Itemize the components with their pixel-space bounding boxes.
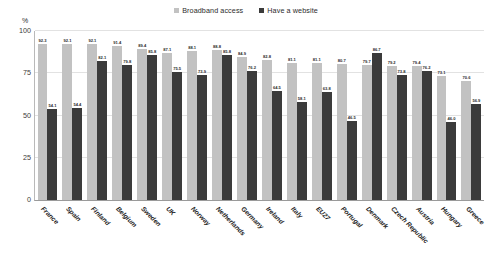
bar-group: 92.154.4: [60, 31, 85, 200]
bar-value-label: 82.1: [98, 55, 106, 60]
bar: 73.9: [197, 75, 207, 200]
bar: 54.4: [72, 108, 82, 200]
bar: 79.4: [412, 66, 422, 200]
legend-swatch-have-a-website: [259, 8, 264, 13]
x-axis-category: Sweden: [134, 203, 159, 273]
bar: 81.1: [312, 63, 322, 200]
x-axis-category-labels: FranceSpainFinlandBelgiumSwedenUKNorwayN…: [34, 203, 484, 273]
bar: 87.1: [162, 53, 172, 200]
bar-value-label: 79.8: [123, 59, 131, 64]
bar-value-label: 73.9: [198, 69, 206, 74]
x-axis-category: Ireland: [259, 203, 284, 273]
x-axis-category-label: EU27: [315, 205, 332, 222]
bar-group: 92.182.1: [85, 31, 110, 200]
x-axis-category: Norway: [184, 203, 209, 273]
bar: 73.8: [397, 75, 407, 200]
bar-value-label: 63.8: [323, 86, 331, 91]
bar: 88.1: [187, 51, 197, 200]
bar-value-label: 46.5: [348, 115, 356, 120]
x-axis-category: Italy: [284, 203, 309, 273]
bar-value-label: 54.1: [48, 103, 56, 108]
chart-legend: Broadband access Have a website: [0, 6, 492, 15]
bar: 63.8: [322, 92, 332, 200]
bar-value-label: 88.8: [213, 44, 221, 49]
x-axis-category: Portugal: [334, 203, 359, 273]
bar: 92.1: [62, 44, 72, 200]
x-axis-category-label: Greece: [465, 205, 486, 226]
bar-value-label: 79.2: [388, 60, 396, 65]
legend-label-broadband-access: Broadband access: [182, 6, 243, 15]
x-axis-category-label: Spain: [65, 205, 83, 223]
bar-value-label: 56.9: [472, 98, 480, 103]
bar: 81.1: [287, 63, 297, 200]
bar-value-label: 75.5: [173, 66, 181, 71]
bar: 46.5: [347, 121, 357, 200]
bar-value-label: 70.6: [462, 75, 470, 80]
bar-value-label: 76.2: [423, 65, 431, 70]
bar-group: 73.146.0: [434, 31, 459, 200]
legend-item-have-a-website: Have a website: [259, 6, 318, 15]
bar: 70.6: [461, 81, 471, 200]
y-axis-unit-label: %: [22, 17, 28, 24]
bar: 64.5: [272, 91, 282, 200]
bar-value-label: 79.4: [413, 60, 421, 65]
x-axis-category-label: France: [40, 205, 60, 225]
bar: 85.8: [222, 55, 232, 200]
bar: 54.1: [47, 109, 57, 200]
y-axis-tick-label: 75: [23, 68, 31, 77]
bar: 92.1: [87, 44, 97, 200]
bar-value-label: 54.4: [73, 102, 81, 107]
bar: 88.8: [212, 50, 222, 200]
bar-group: 88.173.9: [185, 31, 210, 200]
bar: 46.0: [446, 122, 456, 200]
bar-group: 88.885.8: [210, 31, 235, 200]
bar-value-label: 79.7: [363, 59, 371, 64]
bar-group: 80.746.5: [334, 31, 359, 200]
y-axis-tick-label: 0: [27, 195, 31, 204]
bar-value-label: 88.1: [188, 45, 196, 50]
bar-group: 87.175.5: [160, 31, 185, 200]
bar-group: 81.158.1: [284, 31, 309, 200]
bar: 79.7: [362, 65, 372, 200]
bar-value-label: 89.4: [138, 43, 146, 48]
bar: 89.4: [137, 49, 147, 200]
bar: 84.9: [237, 57, 247, 200]
y-axis-tick-label: 25: [23, 152, 31, 161]
chart-container: Broadband access Have a website % 025507…: [0, 0, 492, 279]
x-axis-category: Denmark: [359, 203, 384, 273]
x-axis-category: France: [34, 203, 59, 273]
bar-value-label: 85.8: [223, 49, 231, 54]
x-axis-category-label: Finland: [90, 205, 112, 227]
bar: 56.9: [471, 104, 481, 200]
bar: 92.3: [38, 44, 48, 200]
x-axis-category-label: Italy: [290, 205, 304, 219]
bar-group: 79.476.2: [409, 31, 434, 200]
bar-value-label: 82.8: [263, 54, 271, 59]
x-axis-category: EU27: [309, 203, 334, 273]
bar-group: 89.485.8: [135, 31, 160, 200]
bar: 76.2: [422, 71, 432, 200]
bar: 79.2: [387, 66, 397, 200]
bar-value-label: 91.4: [113, 40, 121, 45]
bar: 79.8: [122, 65, 132, 200]
bar-value-label: 80.7: [338, 58, 346, 63]
bar-group: 70.656.9: [459, 31, 484, 200]
bar-value-label: 92.1: [88, 38, 96, 43]
bar-group: 84.976.2: [235, 31, 260, 200]
bar-group: 91.479.8: [110, 31, 135, 200]
x-axis-category: Austria: [409, 203, 434, 273]
bar: 82.1: [97, 61, 107, 200]
bar: 85.8: [147, 55, 157, 200]
bar-value-label: 81.1: [288, 57, 296, 62]
x-axis-category-label: Austria: [415, 205, 436, 226]
bar-value-label: 76.2: [248, 65, 256, 70]
x-axis-category: Greece: [459, 203, 484, 273]
bar-value-label: 73.1: [438, 70, 446, 75]
bar-value-label: 58.1: [298, 96, 306, 101]
x-axis-category: Netherlands: [209, 203, 234, 273]
bar-value-label: 92.3: [39, 38, 47, 43]
bar-group: 79.786.7: [359, 31, 384, 200]
x-axis-category-label: UK: [165, 205, 177, 217]
y-axis-tick-label: 100: [19, 26, 31, 35]
legend-label-have-a-website: Have a website: [267, 6, 318, 15]
